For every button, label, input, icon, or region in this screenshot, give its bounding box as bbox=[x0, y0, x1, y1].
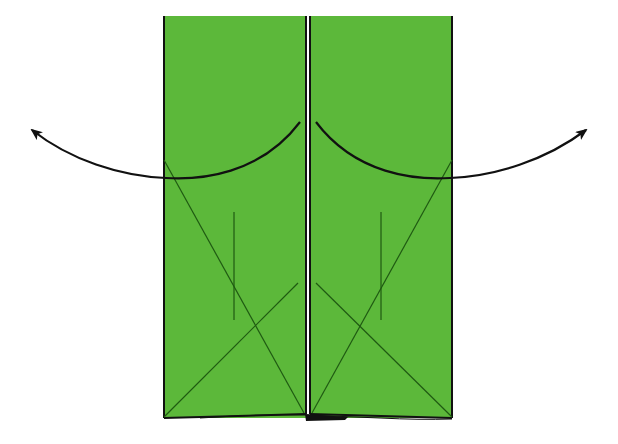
origami-diagram bbox=[0, 0, 618, 444]
right-flap bbox=[310, 16, 452, 418]
left-flap-paper bbox=[164, 16, 306, 418]
left-flap bbox=[164, 16, 306, 418]
